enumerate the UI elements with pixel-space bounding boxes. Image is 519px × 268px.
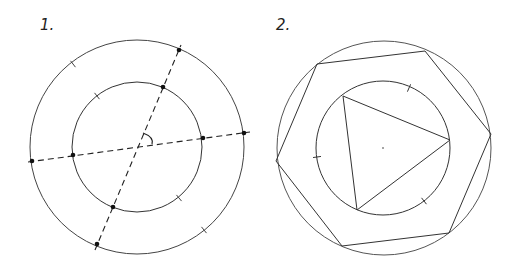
intersection-dot bbox=[161, 85, 166, 90]
intersection-dot bbox=[201, 136, 206, 141]
angle-arc bbox=[143, 133, 152, 144]
intersection-dot bbox=[242, 131, 247, 136]
center-point bbox=[382, 147, 384, 149]
inscribed-triangle bbox=[343, 96, 450, 210]
outer-circle bbox=[277, 41, 491, 255]
intersection-dot bbox=[111, 205, 116, 210]
dashed-diameter-horizontal bbox=[28, 132, 250, 162]
tick-mark bbox=[313, 156, 321, 157]
figure-2 bbox=[276, 41, 491, 255]
intersection-dot bbox=[30, 159, 35, 164]
figure-1 bbox=[28, 40, 250, 254]
tick-marks bbox=[313, 84, 426, 204]
intersection-dot bbox=[95, 242, 100, 247]
intersection-dot bbox=[71, 153, 76, 158]
tick-mark bbox=[422, 198, 427, 204]
dashed-diameter-oblique bbox=[95, 45, 181, 250]
intersection-dot bbox=[177, 48, 182, 53]
diagram-canvas bbox=[0, 0, 519, 268]
tick-mark bbox=[95, 93, 100, 99]
